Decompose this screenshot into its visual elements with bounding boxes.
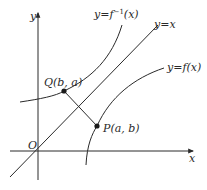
segment-qp: [64, 91, 97, 126]
inverse-function-diagram: y x O y=f−1(x) y=x y=f(x) Q(b, a) P(a, b…: [0, 0, 207, 190]
x-axis-label: x: [189, 152, 196, 165]
inverse-label-sup: −1: [114, 8, 124, 16]
inverse-function-label: y=f−1(x): [93, 8, 139, 21]
point-p-label: P(a, b): [102, 122, 140, 135]
identity-line-label: y=x: [153, 18, 176, 31]
origin-label: O: [28, 139, 37, 152]
point-q: [61, 88, 66, 93]
point-q-label: Q(b, a): [44, 76, 82, 89]
identity-line: [10, 25, 158, 177]
inverse-function-curve: [20, 25, 122, 102]
inverse-label-prefix: y=f: [93, 8, 115, 21]
function-curve: [86, 68, 164, 165]
point-p: [94, 123, 99, 128]
inverse-label-suffix: (x): [124, 8, 139, 21]
function-label: y=f(x): [166, 61, 201, 74]
y-axis-label: y: [29, 10, 37, 23]
